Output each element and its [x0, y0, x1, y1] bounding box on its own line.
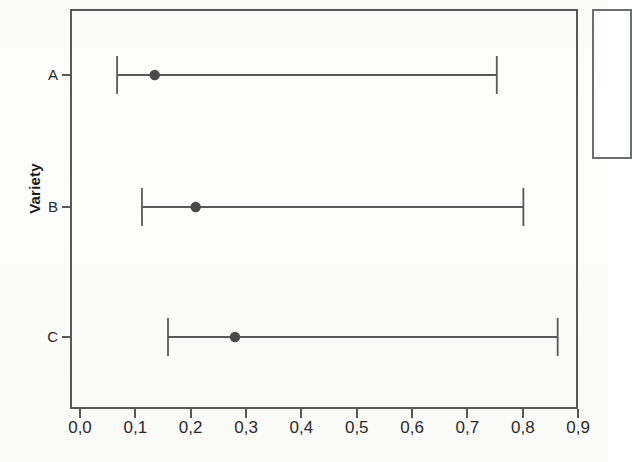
x-tick-mark-1: [134, 409, 136, 418]
x-tick-mark-8: [522, 409, 524, 418]
x-tick-mark-0: [79, 409, 81, 418]
x-tick-label-5: 0,5: [329, 418, 385, 438]
x-tick-label-4: 0,4: [273, 418, 329, 438]
x-tick-mark-4: [300, 409, 302, 418]
x-tick-mark-5: [356, 409, 358, 418]
plot-frame: [70, 9, 578, 409]
x-tick-label-0: 0,0: [52, 418, 108, 438]
x-tick-label-7: 0,7: [439, 418, 495, 438]
x-tick-label-3: 0,3: [218, 418, 274, 438]
legend-box: [592, 9, 632, 159]
x-tick-mark-6: [411, 409, 413, 418]
y-tick-mark-a: [62, 74, 70, 76]
x-tick-mark-3: [245, 409, 247, 418]
y-axis-title: Variety: [26, 129, 43, 249]
y-tick-mark-b: [62, 206, 70, 208]
x-tick-mark-9: [577, 409, 579, 418]
x-tick-label-9: 0,9: [550, 418, 606, 438]
y-tick-label-c: C: [0, 327, 70, 347]
y-tick-mark-c: [62, 336, 70, 338]
x-tick-label-2: 0,2: [163, 418, 219, 438]
x-tick-label-6: 0,6: [384, 418, 440, 438]
x-tick-mark-2: [190, 409, 192, 418]
x-tick-label-1: 0,1: [107, 418, 163, 438]
y-tick-label-b: B: [0, 197, 70, 217]
x-tick-mark-7: [466, 409, 468, 418]
y-tick-label-a: A: [0, 65, 70, 85]
x-tick-label-8: 0,8: [495, 418, 551, 438]
